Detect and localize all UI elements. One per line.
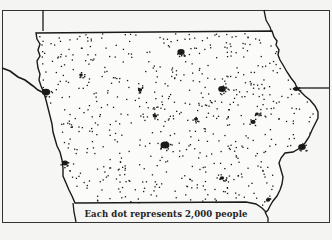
population-dot xyxy=(157,114,158,115)
population-dot xyxy=(153,107,154,108)
population-dot xyxy=(129,151,130,152)
population-dot xyxy=(153,114,154,115)
population-dot xyxy=(51,91,52,92)
population-dot xyxy=(258,115,259,116)
population-dot xyxy=(72,177,73,178)
population-dot xyxy=(214,198,215,199)
population-dot xyxy=(210,100,211,101)
population-dot xyxy=(131,122,132,123)
population-dot xyxy=(216,57,217,58)
population-dot xyxy=(227,193,228,194)
population-dot xyxy=(150,156,151,157)
population-dot xyxy=(93,93,94,94)
population-dot xyxy=(218,116,219,117)
population-dot xyxy=(250,119,251,120)
population-dot xyxy=(207,78,208,79)
population-dot xyxy=(76,153,77,154)
population-dot xyxy=(276,64,277,65)
population-dot xyxy=(157,106,158,107)
population-dot xyxy=(130,34,131,35)
population-dot xyxy=(253,84,254,85)
population-dot xyxy=(142,181,143,182)
population-dot xyxy=(250,81,251,82)
population-dot xyxy=(265,151,266,152)
population-dot xyxy=(128,87,129,88)
population-dot xyxy=(216,118,217,119)
population-dot xyxy=(195,120,196,121)
population-dot xyxy=(260,42,261,43)
population-dot xyxy=(249,124,250,125)
population-dot xyxy=(109,56,110,57)
population-dot xyxy=(145,71,146,72)
population-dot xyxy=(299,93,300,94)
population-dot xyxy=(128,180,129,181)
population-dot xyxy=(82,77,83,78)
population-dot xyxy=(117,141,118,142)
population-dot xyxy=(253,94,254,95)
population-dot xyxy=(108,175,109,176)
population-dot xyxy=(123,49,124,50)
population-dot xyxy=(224,135,225,136)
population-dot xyxy=(228,146,229,147)
population-dot xyxy=(269,196,270,197)
population-dot xyxy=(185,61,186,62)
population-dot xyxy=(234,98,235,99)
population-dot xyxy=(169,96,170,97)
population-dot xyxy=(208,113,209,114)
population-dot xyxy=(85,34,86,35)
population-dot xyxy=(164,109,165,110)
population-dot xyxy=(81,72,82,73)
population-dot xyxy=(120,191,121,192)
population-dot xyxy=(243,56,244,57)
population-dot xyxy=(183,74,184,75)
population-dot xyxy=(151,194,152,195)
population-dot xyxy=(122,167,123,168)
population-dot xyxy=(147,116,148,117)
population-dot xyxy=(232,36,233,37)
population-dot xyxy=(182,155,183,156)
population-dot xyxy=(116,178,117,179)
population-dot xyxy=(205,167,206,168)
population-dot xyxy=(103,166,104,167)
population-dot xyxy=(251,83,252,84)
population-dot xyxy=(80,173,81,174)
population-dot xyxy=(92,131,93,132)
population-dot xyxy=(258,88,259,89)
population-dot xyxy=(42,63,43,64)
population-dot xyxy=(271,108,272,109)
population-dot xyxy=(119,81,120,82)
population-dot xyxy=(235,36,236,37)
population-dot xyxy=(276,51,277,52)
population-dot xyxy=(120,113,121,114)
population-dot xyxy=(172,67,173,68)
population-dot xyxy=(184,39,185,40)
population-dot xyxy=(239,91,240,92)
population-dot xyxy=(186,149,187,150)
population-dot xyxy=(161,157,162,158)
population-dot xyxy=(168,148,169,149)
population-dot xyxy=(161,101,162,102)
population-dot xyxy=(43,89,44,90)
population-dot xyxy=(309,121,310,122)
population-dot xyxy=(160,160,161,161)
population-dot xyxy=(167,39,168,40)
population-dot xyxy=(222,78,223,79)
population-dot xyxy=(226,118,227,119)
population-dot xyxy=(39,36,40,37)
population-dot xyxy=(167,161,168,162)
population-dot xyxy=(255,155,256,156)
population-dot xyxy=(63,123,64,124)
population-dot xyxy=(201,106,202,107)
population-dot xyxy=(199,53,200,54)
population-dot xyxy=(169,118,170,119)
population-dot xyxy=(160,148,161,149)
population-dot xyxy=(110,167,111,168)
population-dot xyxy=(96,101,97,102)
population-dot xyxy=(91,39,92,40)
population-dot xyxy=(131,53,132,54)
population-dot xyxy=(241,146,242,147)
population-dot xyxy=(153,67,154,68)
population-dot xyxy=(262,94,263,95)
population-dot xyxy=(260,114,261,115)
population-dot xyxy=(79,108,80,109)
